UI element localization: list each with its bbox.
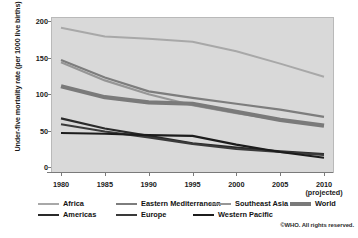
x-tick-label: 1980 xyxy=(41,180,81,189)
legend-label: World xyxy=(315,199,336,208)
legend-item[interactable]: Western Pacific xyxy=(193,210,273,219)
legend-label: Southeast Asia xyxy=(235,199,288,208)
chart-figure: Under-five mortality rate (per 1000 live… xyxy=(0,0,358,238)
series-line xyxy=(61,28,324,77)
legend-color-swatch xyxy=(38,203,59,205)
legend-color-swatch xyxy=(116,214,137,216)
legend-item[interactable]: Eastern Mediterranean xyxy=(116,199,221,208)
legend-item[interactable]: Europe xyxy=(116,210,166,219)
y-tick-mark xyxy=(47,58,51,59)
legend-color-swatch xyxy=(38,214,59,216)
y-tick-mark xyxy=(47,131,51,132)
series-line xyxy=(61,60,324,117)
x-tick-label: 1990 xyxy=(129,180,169,189)
legend-color-swatch xyxy=(116,203,137,205)
legend-label: Western Pacific xyxy=(218,210,273,219)
y-tick-mark xyxy=(47,21,51,22)
y-tick-label: 200 xyxy=(26,17,48,26)
legend-item[interactable]: Africa xyxy=(38,199,84,208)
y-axis-title: Under-five mortality rate (per 1000 live… xyxy=(13,0,22,157)
legend-label: Eastern Mediterranean xyxy=(141,199,221,208)
y-tick-label: 100 xyxy=(26,90,48,99)
series-line xyxy=(61,124,324,155)
x-axis-line xyxy=(47,172,333,173)
legend-item[interactable]: Southeast Asia xyxy=(210,199,288,208)
legend-label: Americas xyxy=(63,210,96,219)
legend-item[interactable]: World xyxy=(290,199,336,208)
y-tick-mark xyxy=(47,94,51,95)
series-lines xyxy=(52,18,333,172)
legend-color-swatch xyxy=(193,214,214,216)
y-tick-mark xyxy=(47,167,51,168)
series-line xyxy=(61,133,324,158)
legend-item[interactable]: Americas xyxy=(38,210,96,219)
legend-color-swatch xyxy=(290,202,311,206)
y-tick-label: 150 xyxy=(26,54,48,63)
series-line xyxy=(61,62,324,126)
x-tick-label: 1985 xyxy=(85,180,125,189)
chart-legend: AfricaEastern MediterraneanSoutheast Asi… xyxy=(0,199,358,223)
x-tick-label: 2000 xyxy=(216,180,256,189)
plot-area xyxy=(51,17,334,173)
y-tick-label: 50 xyxy=(26,127,48,136)
copyright-notice: ©WHO. All rights reserved. xyxy=(280,222,354,228)
legend-label: Europe xyxy=(141,210,166,219)
legend-color-swatch xyxy=(210,203,231,205)
legend-label: Africa xyxy=(63,199,84,208)
y-tick-label: 0 xyxy=(26,163,48,172)
x-tick-label: 1995 xyxy=(173,180,213,189)
x-axis-projected-note: (projected) xyxy=(294,188,354,197)
